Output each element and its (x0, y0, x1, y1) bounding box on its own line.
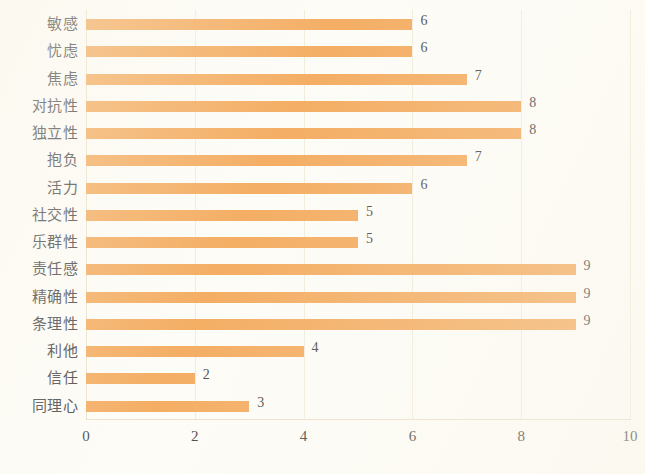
bar-value-label: 2 (203, 367, 210, 383)
x-tick-label-10: 10 (623, 428, 638, 445)
category-label: 独立性 (0, 119, 78, 148)
bar-row: 5 (86, 228, 630, 257)
bar[interactable] (86, 292, 576, 303)
x-tick-label-8: 8 (517, 428, 525, 445)
bar-row: 6 (86, 10, 630, 39)
category-label: 信任 (0, 364, 78, 393)
bar-row: 2 (86, 364, 630, 393)
bar-row: 9 (86, 255, 630, 284)
bar[interactable] (86, 155, 467, 166)
category-label: 抱负 (0, 146, 78, 175)
bar-value-label: 5 (366, 204, 373, 220)
plot-area: 667887655999423 (86, 10, 630, 419)
category-label: 责任感 (0, 255, 78, 284)
category-label: 社交性 (0, 201, 78, 230)
bar-row: 6 (86, 37, 630, 66)
bar[interactable] (86, 101, 521, 112)
category-label: 精确性 (0, 283, 78, 312)
category-axis-labels: 敏感忧虑焦虑对抗性独立性抱负活力社交性乐群性责任感精确性条理性利他信任同理心 (0, 10, 78, 419)
bar[interactable] (86, 19, 412, 30)
bar-row: 8 (86, 92, 630, 121)
bar[interactable] (86, 237, 358, 248)
x-tick-label-6: 6 (409, 428, 417, 445)
bar-value-label: 4 (312, 340, 319, 356)
bar[interactable] (86, 74, 467, 85)
bar-value-label: 6 (420, 177, 427, 193)
bar[interactable] (86, 319, 576, 330)
bar[interactable] (86, 346, 304, 357)
bar-value-label: 8 (529, 95, 536, 111)
category-label: 对抗性 (0, 92, 78, 121)
category-label: 条理性 (0, 310, 78, 339)
bar-value-label: 6 (420, 40, 427, 56)
x-axis-tick-labels: 0246810 (0, 428, 645, 458)
x-tick-label-0: 0 (82, 428, 90, 445)
category-label: 乐群性 (0, 228, 78, 257)
x-tick-label-4: 4 (300, 428, 308, 445)
bar-value-label: 7 (475, 149, 482, 165)
category-label: 忧虑 (0, 37, 78, 66)
category-label: 焦虑 (0, 65, 78, 94)
bar[interactable] (86, 46, 412, 57)
bar[interactable] (86, 128, 521, 139)
gridline-10 (630, 10, 631, 419)
bar-row: 9 (86, 310, 630, 339)
bar-row: 3 (86, 392, 630, 421)
bar-value-label: 9 (584, 286, 591, 302)
category-label: 敏感 (0, 10, 78, 39)
bar-row: 9 (86, 283, 630, 312)
bar-value-label: 6 (420, 13, 427, 29)
bar[interactable] (86, 210, 358, 221)
bar-value-label: 7 (475, 68, 482, 84)
bar-value-label: 9 (584, 258, 591, 274)
bar[interactable] (86, 183, 412, 194)
bar-row: 7 (86, 65, 630, 94)
bar[interactable] (86, 264, 576, 275)
x-tick-label-2: 2 (191, 428, 199, 445)
bar[interactable] (86, 373, 195, 384)
bar-value-label: 5 (366, 231, 373, 247)
bar-row: 6 (86, 174, 630, 203)
bar-value-label: 9 (584, 313, 591, 329)
bar-value-label: 3 (257, 395, 264, 411)
bar[interactable] (86, 401, 249, 412)
bar-value-label: 8 (529, 122, 536, 138)
bar-row: 7 (86, 146, 630, 175)
category-label: 同理心 (0, 392, 78, 421)
category-label: 活力 (0, 174, 78, 203)
category-label: 利他 (0, 337, 78, 366)
bar-row: 4 (86, 337, 630, 366)
horizontal-bar-chart: 敏感忧虑焦虑对抗性独立性抱负活力社交性乐群性责任感精确性条理性利他信任同理心 6… (0, 0, 645, 474)
bar-row: 8 (86, 119, 630, 148)
bar-row: 5 (86, 201, 630, 230)
